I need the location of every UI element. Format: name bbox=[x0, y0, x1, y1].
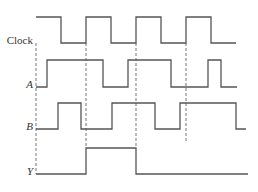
label-a: A bbox=[25, 78, 33, 90]
timing-diagram: ClockABY bbox=[0, 0, 258, 192]
waveform-b bbox=[36, 103, 246, 129]
waveform-y bbox=[36, 148, 248, 174]
signal-waveforms bbox=[36, 17, 248, 174]
label-clock: Clock bbox=[7, 34, 34, 46]
label-b: B bbox=[26, 120, 33, 132]
signal-labels: ClockABY bbox=[7, 34, 35, 177]
waveform-clock bbox=[36, 17, 236, 43]
label-y: Y bbox=[27, 165, 35, 177]
